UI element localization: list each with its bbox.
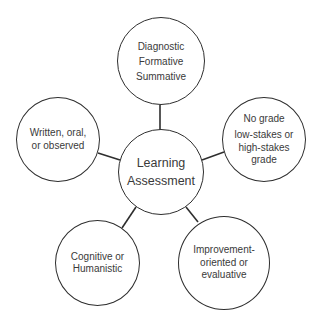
connector-bottom-right — [186, 207, 198, 222]
node-text-line: Humanistic — [73, 263, 122, 276]
node-assessment-timing: Diagnostic Formative Summative — [117, 17, 205, 105]
learning-assessment-diagram: Diagnostic Formative Summative Written, … — [0, 0, 323, 327]
node-assessment-mode: Written, oral, or observed — [16, 97, 100, 182]
node-text-line: Formative — [139, 54, 183, 69]
node-learning-assessment-hub: Learning Assessment — [118, 129, 204, 215]
node-text-line: Cognitive or — [71, 251, 124, 264]
node-text-line: grade — [251, 154, 277, 167]
node-assessment-purpose: Improvement- oriented or evaluative — [178, 216, 270, 310]
node-text-line: oriented or — [200, 257, 248, 270]
node-text-line: evaluative — [201, 269, 246, 282]
node-text-line: Improvement- — [193, 244, 255, 257]
node-text-line: low-stakes or — [235, 129, 294, 142]
node-text-line: No grade — [243, 113, 284, 126]
connector-left — [98, 153, 120, 160]
connector-right — [202, 152, 224, 160]
node-assessment-paradigm: Cognitive or Humanistic — [55, 220, 140, 306]
node-text-line: high-stakes — [238, 142, 289, 155]
hub-title-line: Learning — [137, 154, 186, 172]
node-assessment-stakes: No grade low-stakes or high-stakes grade — [222, 97, 306, 182]
connector-bottom-left — [122, 207, 136, 228]
node-text-line: Summative — [136, 69, 186, 84]
node-text-line: Written, oral, — [30, 127, 87, 140]
node-text-line: Diagnostic — [138, 39, 185, 54]
node-text-line: or observed — [32, 140, 85, 153]
hub-title-line: Assessment — [127, 172, 195, 190]
